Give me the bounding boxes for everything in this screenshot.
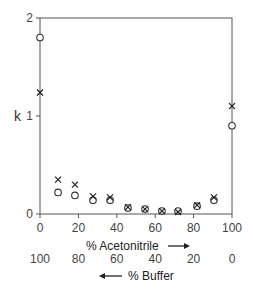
- secondary-x-axis-title: % Buffer: [128, 269, 174, 283]
- circle-marker: [229, 123, 236, 130]
- x-axis-ticks: 020406080100: [37, 214, 243, 235]
- secondary-x-axis-labels: 100806040200: [30, 252, 236, 266]
- circle-marker: [37, 34, 44, 41]
- x-tick-label: 0: [37, 221, 44, 235]
- data-points: [37, 34, 236, 215]
- x-tick-label: 80: [187, 221, 201, 235]
- scatter-chart: 012 020406080100 100806040200 k % Aceton…: [0, 0, 253, 290]
- secondary-x-tick-label: 80: [72, 252, 86, 266]
- secondary-x-tick-label: 40: [149, 252, 163, 266]
- cross-marker: [55, 177, 61, 183]
- secondary-x-tick-label: 0: [229, 252, 236, 266]
- plot-frame: [40, 18, 232, 214]
- y-tick-label: 0: [26, 207, 33, 221]
- cross-marker: [72, 182, 78, 188]
- x-tick-label: 60: [149, 221, 163, 235]
- y-tick-label: 2: [26, 11, 33, 25]
- x-tick-label: 100: [222, 221, 242, 235]
- y-axis-label: k: [14, 108, 22, 124]
- circle-marker: [125, 205, 132, 212]
- right-arrow-icon: [168, 243, 190, 249]
- circle-marker: [55, 189, 62, 196]
- left-arrow-icon: [99, 273, 122, 279]
- y-axis-ticks: 012: [26, 11, 40, 221]
- circle-marker: [72, 192, 79, 199]
- circle-marker: [194, 203, 201, 210]
- secondary-x-tick-label: 60: [110, 252, 124, 266]
- secondary-x-tick-label: 20: [187, 252, 201, 266]
- x-axis-title: % Acetonitrile: [86, 239, 159, 253]
- x-tick-label: 40: [110, 221, 124, 235]
- circle-marker: [175, 208, 182, 215]
- y-tick-label: 1: [26, 109, 33, 123]
- secondary-x-tick-label: 100: [30, 252, 50, 266]
- x-tick-label: 20: [72, 221, 86, 235]
